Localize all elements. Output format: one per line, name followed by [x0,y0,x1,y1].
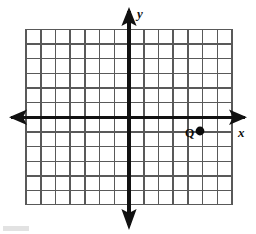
plotted-point-q [196,127,205,136]
scan-artifact [3,226,29,231]
coordinate-plane-svg [0,0,256,234]
x-axis-label: x [238,126,245,139]
y-axis-label: y [137,7,143,20]
coordinate-plane-figure: y x Q [0,0,256,234]
point-label-q: Q [185,127,194,139]
